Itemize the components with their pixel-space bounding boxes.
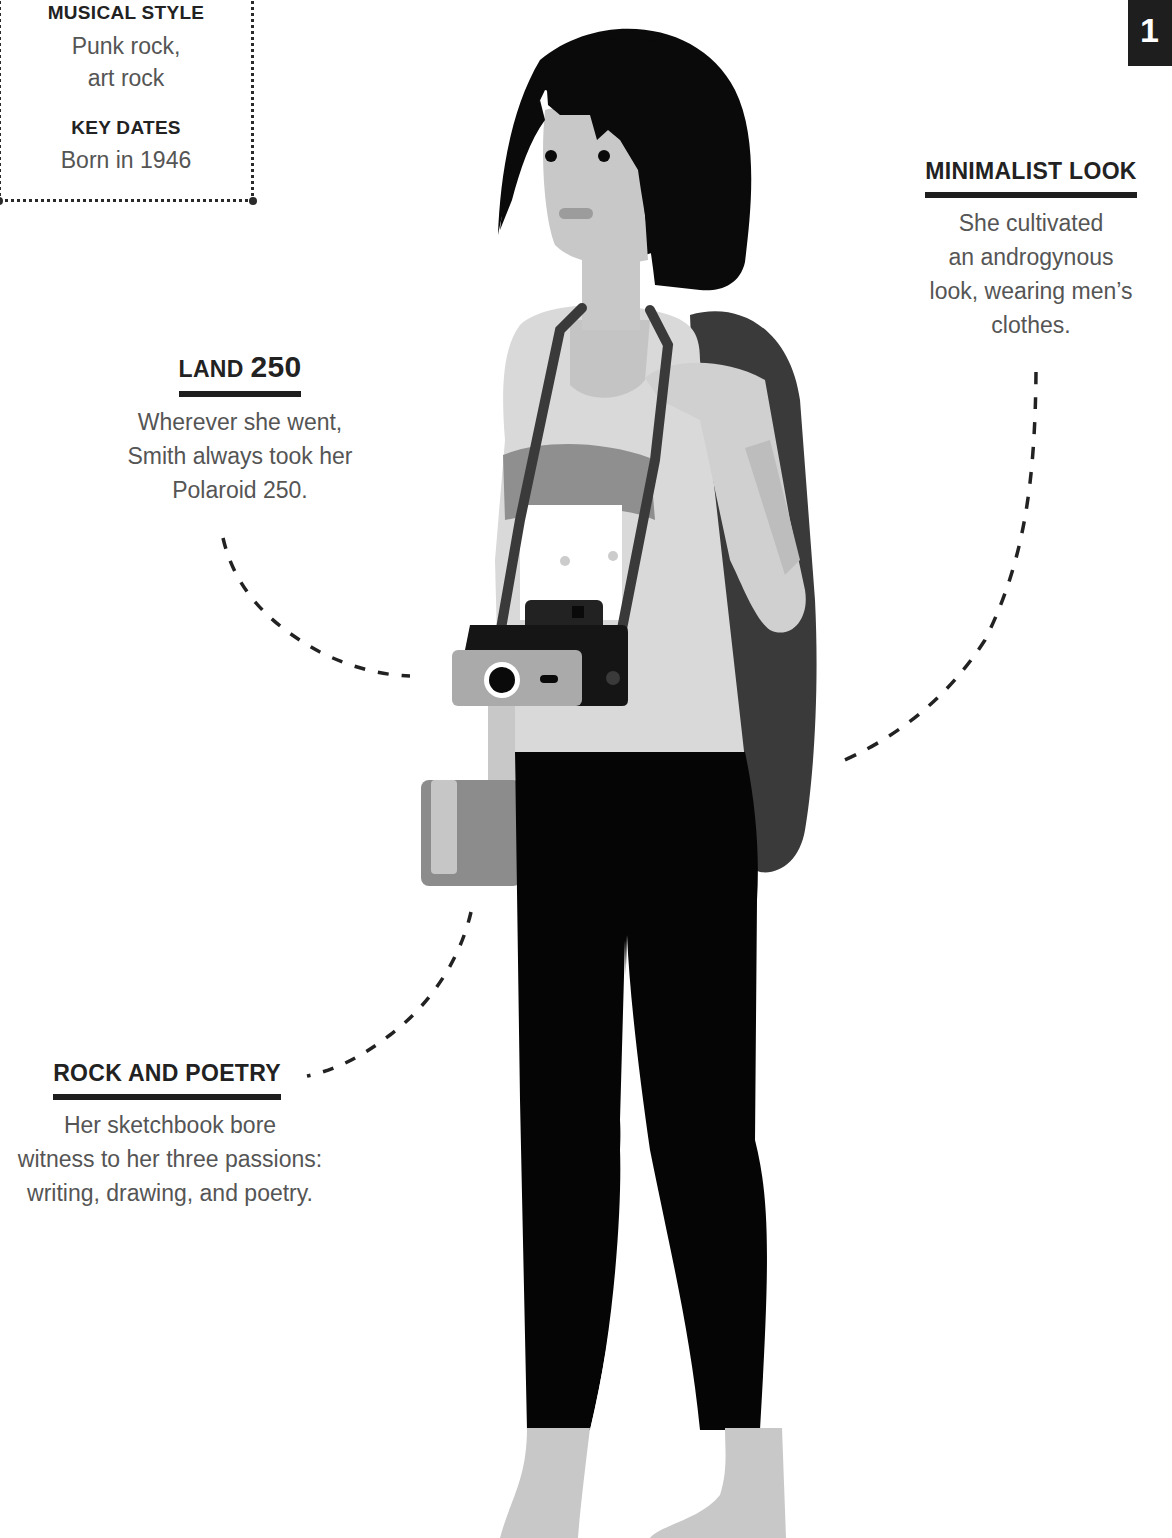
key-dates-label: KEY DATES [1, 117, 251, 139]
musical-style-value: Punk rock, art rock [1, 30, 251, 94]
callout-title: LAND 250 [179, 350, 302, 397]
corner-dot-right [249, 197, 257, 205]
eye-left [545, 150, 557, 162]
body-line: Polaroid 250. [100, 473, 380, 507]
info-box: MUSICAL STYLE Punk rock, art rock KEY DA… [0, 0, 254, 202]
leader-line-minimalist [840, 372, 1036, 762]
callout-body: Wherever she went, Smith always took her… [100, 405, 380, 507]
body-line: witness to her three passions: [0, 1142, 340, 1176]
leader-line-rock [307, 912, 471, 1076]
body-line: She cultivated [896, 206, 1166, 240]
body-line: Wherever she went, [100, 405, 380, 439]
title-small: LAND [179, 356, 244, 382]
body-line: clothes. [896, 308, 1166, 342]
body-line: look, wearing men’s [896, 274, 1166, 308]
callout-land-250: LAND 250 Wherever she went, Smith always… [100, 350, 380, 507]
sketchbook-icon [421, 780, 521, 886]
callout-minimalist-look: MINIMALIST LOOK She cultivated an androg… [896, 158, 1166, 342]
mouth [559, 208, 593, 219]
foot-left [500, 1428, 590, 1538]
key-dates-value: Born in 1946 [1, 144, 251, 176]
body-line: Smith always took her [100, 439, 380, 473]
musical-style-label: MUSICAL STYLE [1, 2, 251, 24]
callout-title: MINIMALIST LOOK [925, 158, 1136, 198]
callout-body: She cultivated an androgynous look, wear… [896, 206, 1166, 342]
musical-style-line-1: Punk rock, [1, 30, 251, 62]
body-line: an androgynous [896, 240, 1166, 274]
title-big: 250 [250, 350, 301, 383]
leader-line-land [223, 538, 410, 676]
callout-title: ROCK AND POETRY [53, 1060, 281, 1100]
polaroid-camera-icon [452, 600, 628, 706]
eye-right [598, 150, 610, 162]
musical-style-line-2: art rock [1, 62, 251, 94]
foot-right [650, 1428, 786, 1538]
callout-body: Her sketchbook bore witness to her three… [0, 1108, 340, 1210]
callout-rock-and-poetry: ROCK AND POETRY Her sketchbook bore witn… [0, 1060, 340, 1210]
body-line: writing, drawing, and poetry. [0, 1176, 340, 1210]
body-line: Her sketchbook bore [0, 1108, 340, 1142]
page-number-tab: 1 [1128, 0, 1172, 66]
